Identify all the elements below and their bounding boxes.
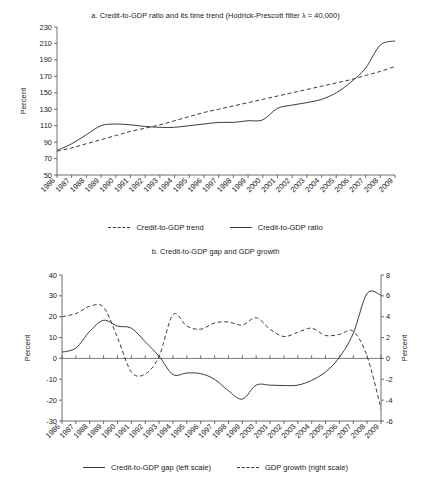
svg-text:2005: 2005 — [318, 176, 336, 194]
legend-label-growth: GDP growth (right scale) — [265, 464, 348, 472]
svg-text:Percent: Percent — [23, 334, 32, 362]
solid-line-icon — [83, 464, 105, 471]
svg-text:40: 40 — [49, 271, 57, 280]
svg-text:1987: 1987 — [53, 176, 71, 194]
svg-text:2002: 2002 — [274, 176, 292, 194]
svg-text:90: 90 — [44, 138, 52, 147]
svg-text:2003: 2003 — [289, 176, 307, 194]
chart-panel-b: b. Credit-to-GDP gap and GDP growth -30-… — [0, 244, 431, 489]
svg-text:-10: -10 — [46, 375, 57, 384]
svg-text:2004: 2004 — [303, 176, 321, 194]
svg-text:2001: 2001 — [259, 176, 277, 194]
svg-text:30: 30 — [49, 291, 57, 300]
svg-text:6: 6 — [386, 291, 390, 300]
panel-b-legend: Credit-to-GDP gap (left scale) GDP growt… — [0, 464, 431, 472]
svg-text:Percent: Percent — [400, 334, 409, 362]
svg-text:1999: 1999 — [230, 176, 248, 194]
svg-text:2009: 2009 — [377, 176, 395, 194]
dashed-line-icon — [108, 224, 130, 231]
panel-a-plot: 5070901101301501701902102301986198719881… — [0, 0, 431, 218]
legend-item-credit-to-gdp-ratio: Credit-to-GDP ratio — [230, 224, 323, 232]
svg-text:1991: 1991 — [112, 176, 130, 194]
svg-text:-4: -4 — [386, 396, 393, 405]
svg-text:20: 20 — [49, 312, 57, 321]
panel-b-plot: -30-20-10010203040-6-4-202468Percent1986… — [0, 244, 431, 460]
svg-text:1988: 1988 — [68, 176, 86, 194]
svg-text:70: 70 — [44, 154, 52, 163]
svg-text:1994: 1994 — [156, 176, 174, 194]
svg-text:2000: 2000 — [244, 176, 262, 194]
svg-text:190: 190 — [39, 55, 52, 64]
panel-a-legend: Credit-to-GDP trend Credit-to-GDP ratio — [0, 224, 431, 232]
svg-text:1989: 1989 — [83, 176, 101, 194]
svg-text:150: 150 — [39, 88, 52, 97]
figure-container: a. Credit-to-GDP ratio and its time tren… — [0, 0, 431, 489]
svg-text:1993: 1993 — [142, 176, 160, 194]
svg-text:2008: 2008 — [362, 176, 380, 194]
solid-line-icon — [230, 224, 252, 231]
legend-item-credit-to-gdp-trend: Credit-to-GDP trend — [108, 224, 203, 232]
svg-text:130: 130 — [39, 105, 52, 114]
svg-text:10: 10 — [49, 333, 57, 342]
svg-text:1986: 1986 — [39, 176, 57, 194]
legend-item-credit-to-gdp-gap: Credit-to-GDP gap (left scale) — [83, 464, 211, 472]
svg-text:0: 0 — [386, 354, 390, 363]
svg-text:2006: 2006 — [333, 176, 351, 194]
svg-text:Percent: Percent — [19, 87, 28, 115]
dashed-line-icon — [237, 464, 259, 471]
svg-text:2009: 2009 — [363, 422, 381, 440]
chart-panel-a: a. Credit-to-GDP ratio and its time tren… — [0, 0, 431, 244]
svg-text:1996: 1996 — [186, 176, 204, 194]
svg-text:110: 110 — [40, 121, 52, 130]
svg-text:0: 0 — [53, 354, 57, 363]
svg-text:170: 170 — [39, 72, 52, 81]
legend-label-gap: Credit-to-GDP gap (left scale) — [111, 464, 211, 472]
svg-text:210: 210 — [39, 39, 52, 48]
legend-label-trend: Credit-to-GDP trend — [136, 224, 203, 232]
svg-text:1995: 1995 — [171, 176, 189, 194]
svg-text:230: 230 — [39, 23, 52, 32]
svg-text:2: 2 — [386, 333, 390, 342]
svg-text:1998: 1998 — [215, 176, 233, 194]
legend-item-gdp-growth: GDP growth (right scale) — [237, 464, 348, 472]
svg-text:-6: -6 — [386, 417, 393, 426]
svg-text:1992: 1992 — [127, 176, 145, 194]
svg-text:2007: 2007 — [347, 176, 365, 194]
legend-label-ratio: Credit-to-GDP ratio — [258, 224, 323, 232]
svg-text:4: 4 — [386, 312, 390, 321]
svg-text:-20: -20 — [46, 396, 57, 405]
svg-text:8: 8 — [386, 271, 390, 280]
svg-text:-2: -2 — [386, 375, 393, 384]
svg-text:1990: 1990 — [98, 176, 116, 194]
svg-text:1997: 1997 — [200, 176, 218, 194]
